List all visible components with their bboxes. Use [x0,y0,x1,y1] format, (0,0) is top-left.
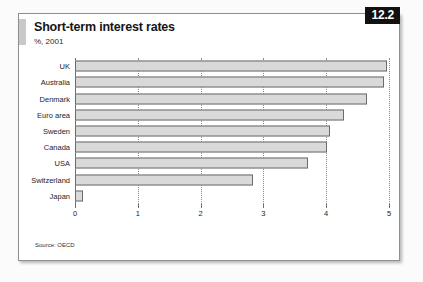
gridline-5 [389,58,390,204]
x-tick-4 [326,204,327,208]
plot-area: UKAustraliaDenmarkEuro areaSwedenCanadaU… [75,58,389,204]
bar-japan [75,190,83,201]
chart-screenshot: Short-term interest rates %, 2001 12.2 U… [0,0,423,282]
x-tick-label-0: 0 [73,209,77,218]
category-label-euro-area: Euro area [37,110,70,119]
chart-title: Short-term interest rates [34,20,175,34]
bar-row: Sweden [75,123,389,139]
chart-subtitle: %, 2001 [34,37,63,46]
bar-row: Australia [75,74,389,90]
bar-euro-area [75,109,344,120]
bar-sweden [75,125,330,136]
x-tick-label-2: 2 [199,209,203,218]
x-tick-label-3: 3 [261,209,265,218]
bar-row: Euro area [75,107,389,123]
x-tick-3 [263,204,264,208]
bar-denmark [75,93,367,104]
category-label-canada: Canada [44,143,70,152]
bar-usa [75,158,308,169]
bar-switzerland [75,174,253,185]
x-tick-label-5: 5 [387,209,391,218]
bar-row: USA [75,155,389,171]
x-tick-0 [75,204,76,208]
category-label-denmark: Denmark [40,94,70,103]
x-tick-label-4: 4 [324,209,328,218]
x-tick-5 [389,204,390,208]
bar-row: Switzerland [75,172,389,188]
category-label-sweden: Sweden [43,126,70,135]
category-label-uk: UK [60,62,70,71]
category-label-australia: Australia [41,78,70,87]
bar-rows: UKAustraliaDenmarkEuro areaSwedenCanadaU… [75,58,389,204]
bar-canada [75,142,327,153]
title-accent-bar [19,19,26,45]
bar-row: UK [75,58,389,74]
x-tick-label-1: 1 [136,209,140,218]
figure-number-badge: 12.2 [365,7,400,24]
x-axis: 012345 [75,204,389,222]
chart-card: Short-term interest rates %, 2001 12.2 U… [18,13,400,261]
x-tick-2 [201,204,202,208]
category-label-switzerland: Switzerland [31,175,70,184]
bar-row: Canada [75,139,389,155]
bar-australia [75,77,384,88]
source-note: Source: OECD [35,242,75,248]
category-label-japan: Japan [50,191,70,200]
category-label-usa: USA [55,159,70,168]
bar-row: Japan [75,188,389,204]
x-tick-1 [138,204,139,208]
bar-uk [75,61,387,72]
bar-row: Denmark [75,90,389,106]
